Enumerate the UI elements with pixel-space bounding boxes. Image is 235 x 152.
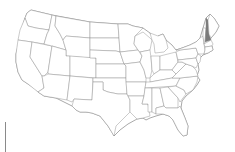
state-maine: [208, 14, 219, 38]
state-iowa: [120, 50, 142, 64]
state-north-dakota: [90, 22, 119, 38]
state-connecticut: [204, 46, 213, 54]
state-michigan: [150, 33, 168, 53]
scale-line: [5, 122, 6, 152]
state-arkansas: [126, 82, 146, 96]
state-south-dakota: [90, 38, 120, 52]
state-colorado: [70, 56, 96, 78]
us-map: [0, 0, 235, 152]
state-wyoming: [63, 36, 90, 58]
state-kansas: [96, 64, 126, 78]
state-new-mexico: [67, 76, 93, 102]
state-florida: [156, 106, 188, 136]
